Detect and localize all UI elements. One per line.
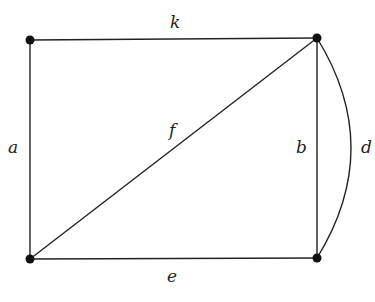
vertex-top-right [313, 34, 322, 43]
edge-e [30, 258, 317, 259]
graph-diagram: k a f b d e [0, 0, 375, 302]
label-k: k [170, 12, 180, 32]
label-d: d [361, 137, 372, 157]
label-f: f [167, 120, 178, 140]
label-e: e [167, 266, 177, 286]
vertex-top-left [26, 36, 35, 45]
label-b: b [296, 137, 307, 157]
edge-d [317, 38, 351, 258]
vertex-bottom-right [313, 254, 322, 263]
edge-f [30, 38, 317, 259]
vertex-bottom-left [26, 255, 35, 264]
edge-k [30, 38, 317, 40]
label-a: a [8, 137, 18, 157]
